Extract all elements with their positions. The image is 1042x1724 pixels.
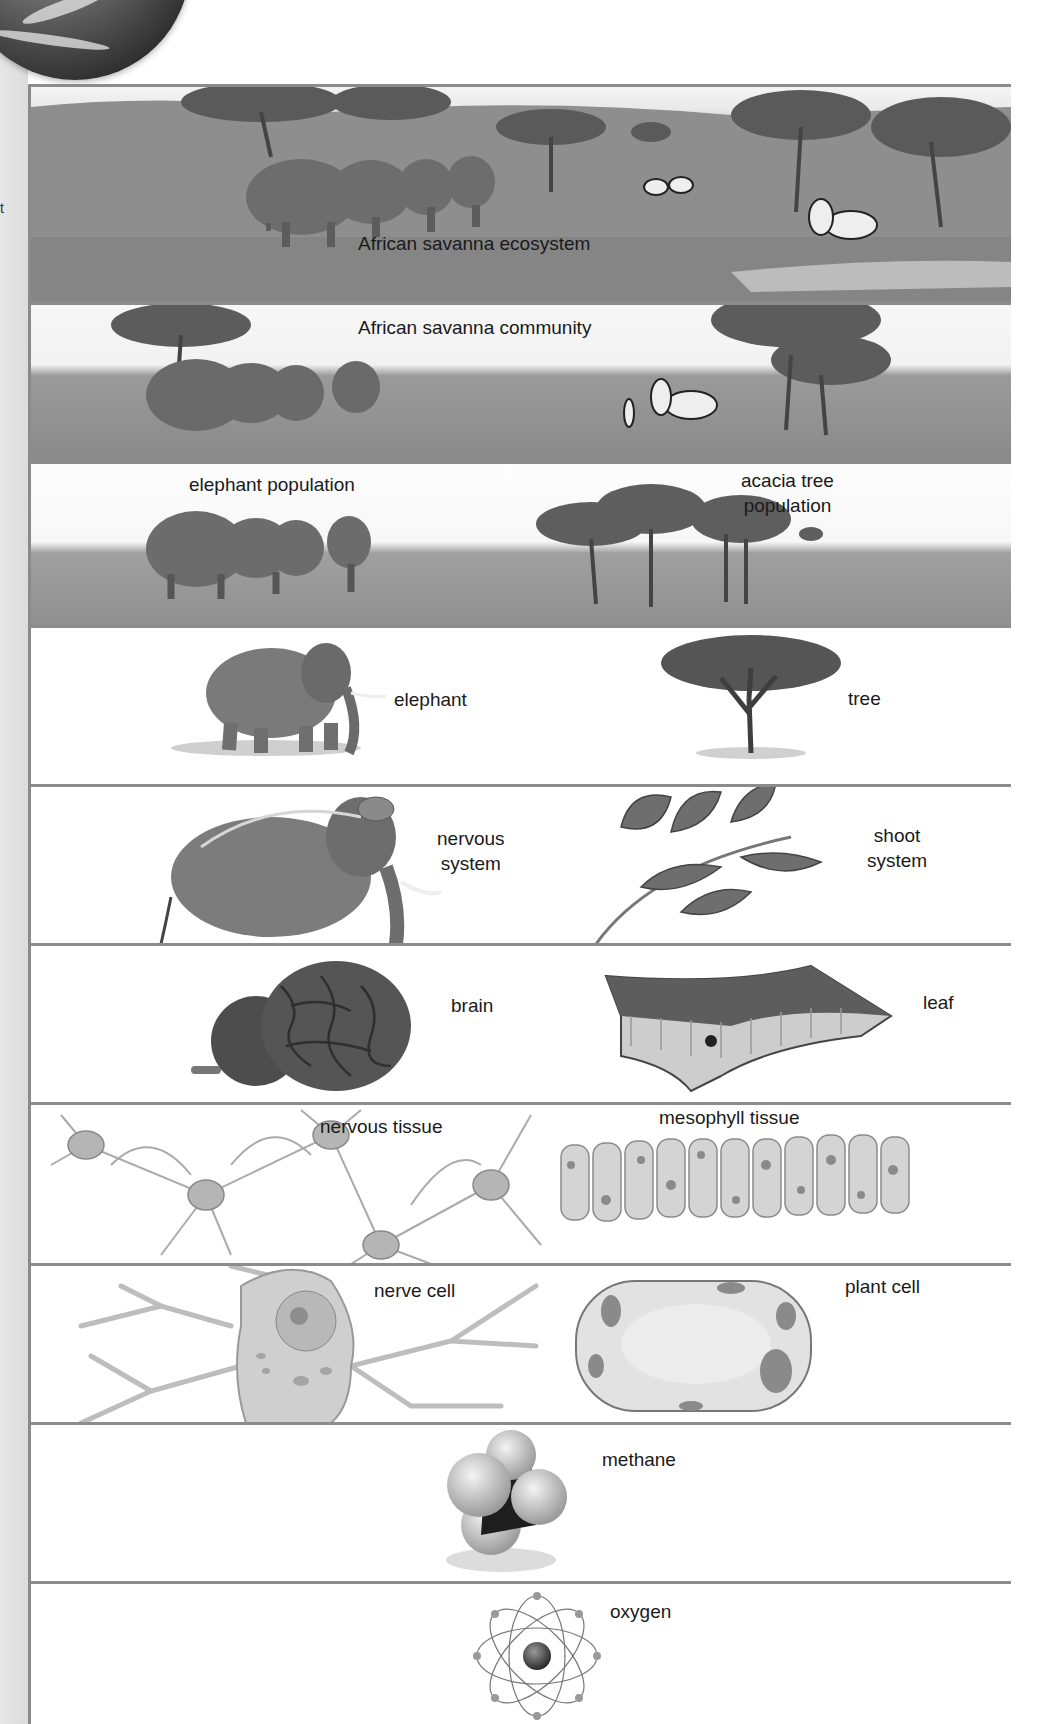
row-community: African savanna community [31, 302, 1011, 462]
left-margin-strip: t [0, 0, 28, 1724]
row-population: elephant population acacia tree populati… [31, 461, 1011, 626]
label-oxygen: oxygen [610, 1599, 671, 1624]
label-nervous-line2: system [437, 851, 505, 876]
label-elephant-population: elephant population [189, 472, 355, 497]
row-molecule: methane [31, 1422, 1011, 1582]
label-shoot-line2: system [867, 848, 927, 873]
label-acacia-line2: population [741, 493, 834, 518]
population-image [31, 464, 1011, 626]
margin-mark: t [0, 200, 4, 216]
row-organ: brain leaf [31, 943, 1011, 1103]
label-brain: brain [451, 993, 493, 1018]
label-community: African savanna community [358, 315, 591, 340]
label-elephant: elephant [394, 687, 467, 712]
row-organism: elephant tree [31, 625, 1011, 785]
organ-image [31, 946, 1011, 1103]
label-ecosystem: African savanna ecosystem [358, 231, 590, 256]
label-plant-cell: plant cell [845, 1274, 920, 1299]
tissue-image [31, 1105, 1011, 1264]
oxygen-atom-image [31, 1584, 1011, 1724]
label-shoot-line1: shoot [867, 823, 927, 848]
organ-system-image [31, 787, 1011, 944]
row-atom: oxygen [31, 1581, 1011, 1724]
savanna-ecosystem-image [31, 87, 1011, 303]
label-shoot-system: shoot system [867, 823, 927, 873]
label-nervous-system: nervous system [437, 826, 505, 876]
label-nervous-tissue: nervous tissue [320, 1114, 443, 1139]
label-nerve-cell: nerve cell [374, 1278, 455, 1303]
row-cell: nerve cell plant cell [31, 1263, 1011, 1423]
label-methane: methane [602, 1447, 676, 1472]
row-tissue: nervous tissue mesophyll tissue [31, 1102, 1011, 1264]
label-leaf: leaf [923, 990, 954, 1015]
row-organ-system: nervous system shoot system [31, 784, 1011, 944]
earth-globe-image [0, 0, 190, 80]
methane-molecule-image [31, 1425, 1011, 1582]
row-ecosystem: African savanna ecosystem [31, 84, 1011, 303]
label-mesophyll-tissue: mesophyll tissue [659, 1105, 799, 1130]
label-nervous-line1: nervous [437, 826, 505, 851]
levels-panel: African savanna ecosystem African savann… [28, 84, 1011, 1724]
label-acacia-line1: acacia tree [741, 468, 834, 493]
label-acacia-population: acacia tree population [741, 468, 834, 518]
label-tree: tree [848, 686, 881, 711]
